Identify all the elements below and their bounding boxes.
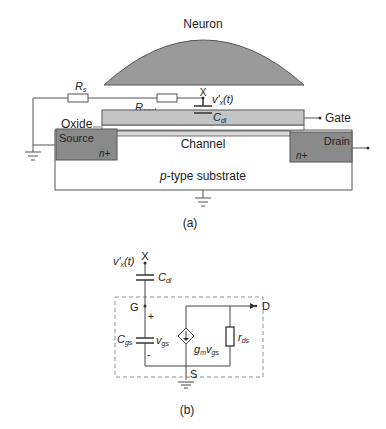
oxide-layer	[102, 125, 304, 130]
substrate-label: p-type substrate	[159, 169, 246, 183]
caption-b: (b)	[180, 403, 195, 417]
vx-label: v'x(t)	[212, 93, 234, 106]
rds-resistor	[226, 327, 234, 346]
gate-node-label: G	[130, 301, 139, 313]
cgs-label: Cgs	[117, 333, 133, 347]
channel	[116, 131, 291, 136]
rds-label: rds	[238, 331, 250, 344]
cdl-capacitor-b	[136, 275, 154, 280]
node-x-label-b: X	[141, 250, 149, 262]
figure-canvas: Neuron Rs Rseal X v'x(t) p-	[0, 0, 386, 429]
gate-terminal	[319, 117, 322, 120]
drain-label: Drain	[324, 135, 350, 147]
drain-terminal	[367, 147, 370, 150]
figure-b: X v'x(t) Cdl G + Cgs	[113, 250, 270, 417]
figure-a: Neuron Rs Rseal X v'x(t) p-	[25, 17, 370, 230]
drain-node-label: D	[262, 300, 270, 312]
gate-label: Gate	[325, 111, 351, 125]
gm-label: gmvgs	[194, 343, 219, 357]
node-x-label: X	[200, 87, 207, 98]
neuron-label: Neuron	[183, 17, 222, 31]
caption-a: (a)	[183, 216, 198, 230]
source-node-label: S	[190, 368, 197, 380]
neuron-shape	[104, 40, 304, 85]
source-doping: n+	[99, 148, 111, 159]
cdl-label-b: Cdl	[158, 271, 172, 284]
rs-label: Rs	[75, 80, 87, 93]
ground-icon-b	[178, 382, 194, 388]
plus-sign: +	[148, 311, 154, 322]
channel-label: Channel	[181, 137, 226, 151]
vgs-label: vgs	[156, 334, 169, 348]
source-label: Source	[59, 132, 94, 144]
vx-label-b: v'x(t)	[113, 255, 135, 268]
cgs-capacitor	[136, 338, 154, 343]
minus-sign: -	[147, 349, 150, 360]
substrate-ground-icon	[195, 190, 211, 206]
drain-doping: n+	[296, 150, 308, 161]
